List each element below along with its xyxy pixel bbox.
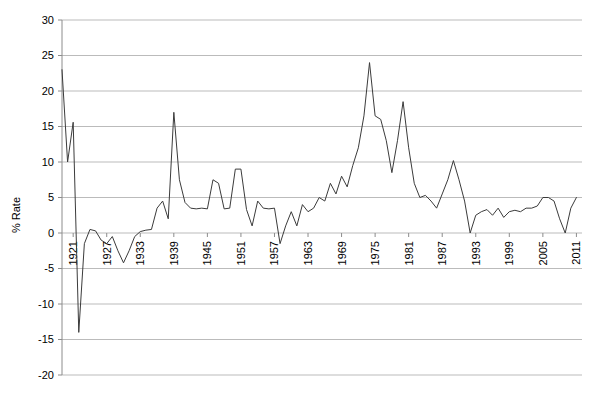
y-axis-tick-label: 30 [42, 14, 54, 26]
y-axis-tick-label: 10 [42, 156, 54, 168]
y-axis-tick-label: -15 [38, 333, 54, 345]
x-axis-tick-label: 1927 [101, 241, 113, 265]
y-axis-ticks-group: 302520151050-5-10-15-20 [38, 14, 62, 381]
x-axis-tick-label: 1987 [436, 241, 448, 265]
y-axis-tick-label: -20 [38, 369, 54, 381]
x-axis-tick-label: 1933 [134, 241, 146, 265]
x-axis-tick-label: 1951 [235, 241, 247, 265]
y-axis-tick-label: -5 [44, 262, 54, 274]
y-axis-tick-label: -10 [38, 298, 54, 310]
x-axis-ticks-group: 1921192719331939194519511957196319691975… [67, 233, 582, 265]
x-axis-tick-label: 1939 [168, 241, 180, 265]
x-axis-tick-label: 1969 [336, 241, 348, 265]
x-axis-tick-label: 1945 [201, 241, 213, 265]
x-axis-tick-label: 1993 [470, 241, 482, 265]
y-axis-title: % Rate [10, 197, 22, 233]
line-chart: 302520151050-5-10-15-20 1921192719331939… [0, 0, 596, 401]
x-axis-tick-label: 2005 [537, 241, 549, 265]
y-axis-tick-label: 15 [42, 120, 54, 132]
x-axis-tick-label: 1999 [503, 241, 515, 265]
y-axis-tick-label: 0 [48, 227, 54, 239]
chart-container: 302520151050-5-10-15-20 1921192719331939… [0, 0, 596, 401]
x-axis-tick-label: 1975 [369, 241, 381, 265]
x-axis-tick-label: 1963 [302, 241, 314, 265]
x-axis-tick-label: 2011 [570, 241, 582, 265]
x-axis-tick-label: 1957 [268, 241, 280, 265]
y-axis-tick-label: 20 [42, 85, 54, 97]
y-axis-tick-label: 25 [42, 49, 54, 61]
gridlines-group [62, 20, 582, 375]
x-axis-tick-label: 1981 [403, 241, 415, 265]
y-axis-tick-label: 5 [48, 191, 54, 203]
